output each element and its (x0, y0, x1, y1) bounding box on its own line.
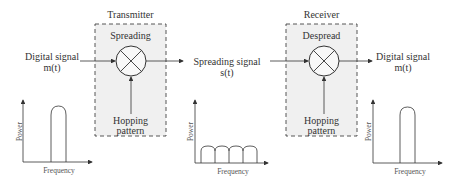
plot1-ylabel: Power (15, 117, 24, 147)
fhss-diagram: Transmitter Receiver Spreading Despread … (0, 0, 457, 185)
transmitter-title: Transmitter (105, 9, 156, 20)
rx-hopping-label-2: pattern (296, 125, 347, 136)
spreading-label: Spreading (105, 30, 156, 41)
transmitter-mixer-icon (116, 46, 146, 76)
diagram-graphics (0, 0, 457, 185)
spread-signal-label: Spreading signal (186, 56, 268, 67)
output-signal-label: Digital signal (370, 51, 436, 62)
plot1-xlabel: Frequency (34, 166, 84, 175)
plot2-ylabel: Power (186, 117, 195, 147)
receiver-title: Receiver (296, 9, 347, 20)
plot2-xlabel: Frequency (208, 167, 258, 176)
spread-signal-symbol: s(t) (186, 67, 268, 78)
tx-hopping-label-2: pattern (105, 125, 156, 136)
receiver-mixer-icon (309, 46, 339, 76)
plot3-xlabel: Frequency (385, 167, 435, 176)
plot-input-spectrum (23, 100, 92, 162)
input-signal-symbol: m(t) (20, 62, 84, 73)
plot3-ylabel: Power (364, 117, 373, 147)
plot-spread-spectrum (195, 100, 268, 163)
despread-label: Despread (296, 30, 347, 41)
output-signal-symbol: m(t) (370, 62, 436, 73)
input-signal-label: Digital signal (20, 51, 84, 62)
plot-output-spectrum (373, 100, 442, 163)
